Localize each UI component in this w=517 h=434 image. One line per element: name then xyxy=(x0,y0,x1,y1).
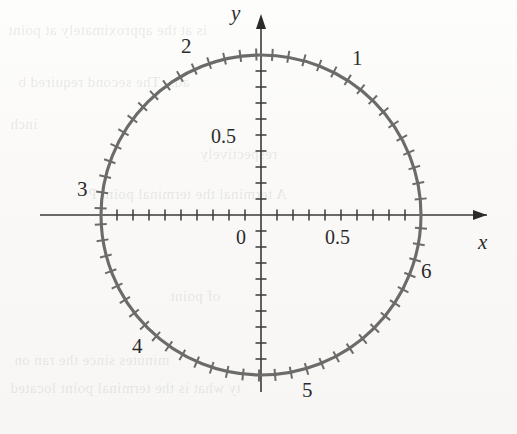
radian-label-1: 1 xyxy=(352,48,363,69)
radian-label-4: 4 xyxy=(132,336,143,357)
y-axis-tick-label-half: 0.5 xyxy=(211,126,236,146)
y-axis-label: y xyxy=(231,3,240,24)
radian-label-2: 2 xyxy=(181,36,192,57)
x-axis-arrowhead xyxy=(473,210,487,220)
radian-label-3: 3 xyxy=(77,179,88,200)
plot-svg xyxy=(0,0,517,434)
unit-circle-figure: is at the approximately at point ads. Th… xyxy=(0,0,517,434)
radian-label-6: 6 xyxy=(421,261,432,282)
x-axis-tick-label-half: 0.5 xyxy=(325,227,350,247)
origin-label: 0 xyxy=(236,227,246,247)
radian-label-5: 5 xyxy=(302,380,313,401)
y-axis-arrowhead xyxy=(256,14,266,29)
x-axis-label: x xyxy=(478,232,487,253)
